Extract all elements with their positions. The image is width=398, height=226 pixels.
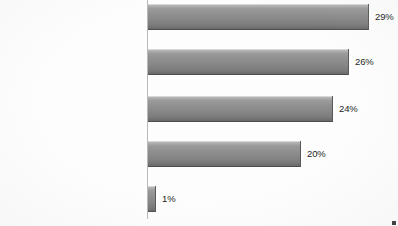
bar-executive	[148, 96, 333, 122]
bar-vice-president	[148, 49, 349, 75]
value-label: 20%	[307, 141, 326, 167]
plot-area: President/CEO/Managing Director 29% Vice…	[0, 0, 398, 226]
scan-artifact	[392, 221, 396, 225]
value-label: 29%	[375, 4, 394, 30]
value-label: 24%	[339, 96, 358, 122]
bar-staff	[148, 141, 301, 167]
value-label: 26%	[355, 49, 374, 75]
bar-chart: President/CEO/Managing Director 29% Vice…	[0, 0, 398, 226]
bar-junior-level-staff	[148, 186, 156, 212]
bar-president-ceo-managing-director	[148, 4, 369, 30]
value-label: 1%	[162, 186, 176, 212]
